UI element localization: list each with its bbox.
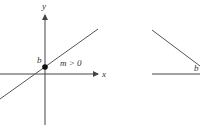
slope-label: m > 0 (60, 58, 82, 68)
y-axis-label: y (41, 1, 46, 11)
positive-slope-line (0, 29, 98, 99)
x-axis-label: x (101, 69, 106, 79)
left-panel: y x b m > 0 (0, 1, 106, 125)
intercept-label-right: b (194, 63, 199, 73)
intercept-label: b (37, 55, 42, 65)
negative-slope-line (152, 30, 200, 66)
y-intercept-point (42, 64, 48, 70)
slope-intercept-diagram: y x b m > 0 b (0, 0, 200, 125)
right-panel: b (152, 30, 200, 74)
